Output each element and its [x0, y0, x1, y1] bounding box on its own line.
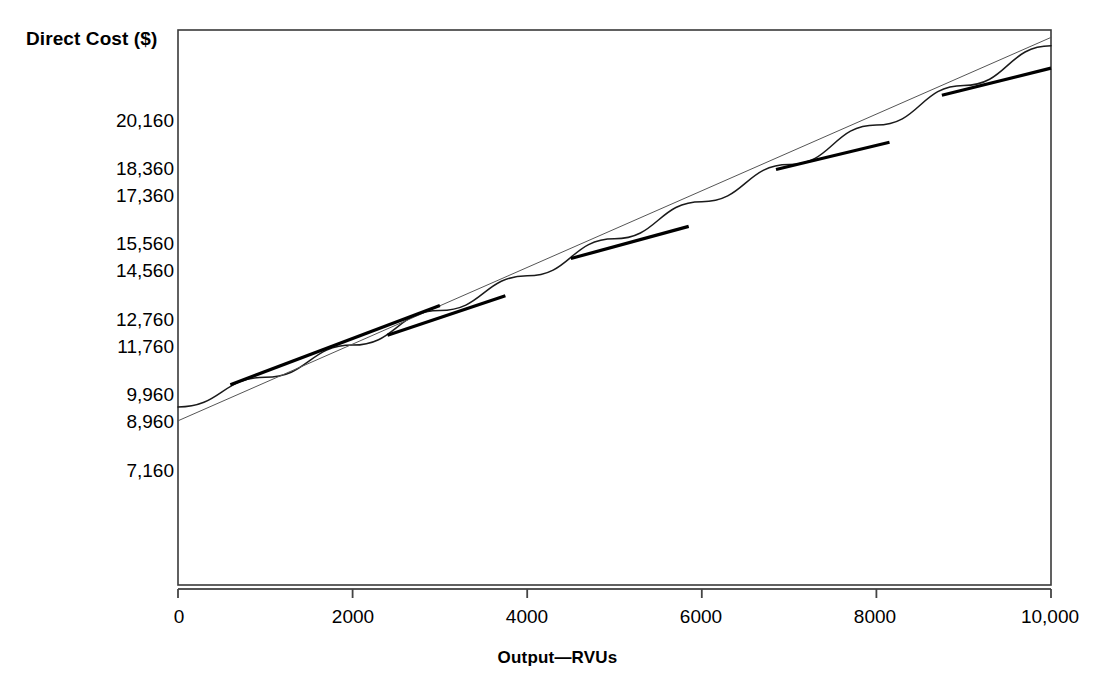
tangent-layer — [230, 68, 1051, 385]
tangent-4 — [776, 142, 890, 169]
tangent-5 — [942, 68, 1051, 95]
plot-frame — [178, 30, 1051, 585]
series-layer — [178, 37, 1051, 420]
tangent-3 — [571, 226, 689, 258]
x-tick-marks — [178, 589, 1051, 598]
total-direct-cost-curve — [178, 46, 1051, 407]
tangent-2 — [388, 296, 506, 336]
plot-area — [0, 0, 1115, 692]
chart-figure: Direct Cost ($) Output—RVUs 20,160 18,36… — [0, 0, 1115, 692]
straight-reference-line — [178, 37, 1051, 420]
tangent-1 — [230, 306, 440, 385]
